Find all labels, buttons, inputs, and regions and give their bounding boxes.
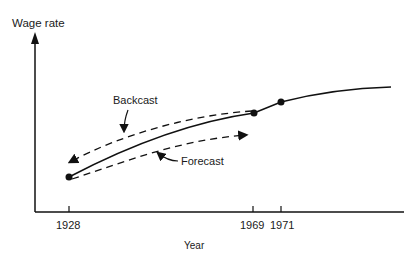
tick-1928: 1928 xyxy=(56,219,80,231)
tick-1969: 1969 xyxy=(240,219,264,231)
forecast-leader xyxy=(158,153,178,161)
backcast-leader xyxy=(124,110,128,131)
y-axis-arrow-icon xyxy=(31,32,39,44)
tick-1971: 1971 xyxy=(270,219,294,231)
backcast-label: Backcast xyxy=(113,94,158,106)
y-axis xyxy=(31,32,39,212)
y-axis-label: Wage rate xyxy=(12,17,65,29)
point-1969 xyxy=(251,110,258,117)
point-1971 xyxy=(278,99,285,106)
x-axis xyxy=(35,206,404,212)
point-1928 xyxy=(66,174,73,181)
x-axis-label: Year xyxy=(184,240,204,251)
forecast-label: Forecast xyxy=(181,155,224,167)
